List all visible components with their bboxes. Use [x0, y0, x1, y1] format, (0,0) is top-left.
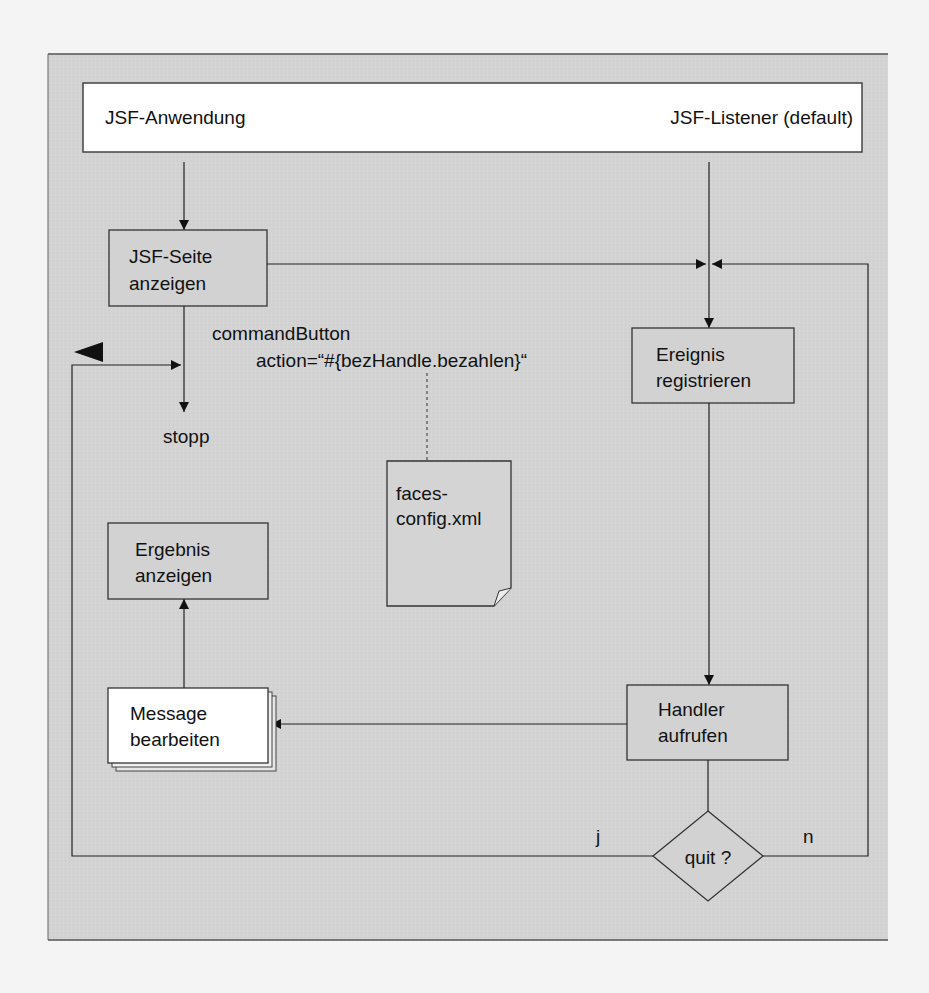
node-jsf-page: JSF-Seite anzeigen — [109, 230, 267, 306]
yes-label: j — [595, 826, 600, 847]
node-process-message: Message bearbeiten — [108, 688, 276, 771]
node-call-handler: Handler aufrufen — [627, 685, 788, 760]
node-jsf-page-line2: anzeigen — [129, 273, 206, 294]
command-button-action: action=“#{bezHandle.bezahlen}“ — [256, 350, 527, 371]
lane-label-application: JSF-Anwendung — [105, 107, 245, 128]
flow-diagram: JSF-Anwendung JSF-Listener (default) JSF… — [0, 0, 929, 993]
node-call-handler-line1: Handler — [658, 699, 725, 720]
node-call-handler-line2: aufrufen — [658, 725, 728, 746]
no-label: n — [803, 826, 814, 847]
node-register-event: Ereignis registrieren — [632, 328, 794, 403]
stop-label: stopp — [163, 426, 209, 447]
config-document-line1: faces- — [396, 483, 448, 504]
node-process-message-line2: bearbeiten — [130, 729, 220, 750]
node-jsf-page-line1: JSF-Seite — [129, 246, 212, 267]
lane-label-listener: JSF-Listener (default) — [670, 107, 853, 128]
node-register-event-line1: Ereignis — [656, 344, 725, 365]
node-process-message-line1: Message — [130, 703, 207, 724]
node-config-document: faces- config.xml — [387, 461, 511, 606]
node-register-event-line2: registrieren — [656, 370, 751, 391]
node-show-result: Ergebnis anzeigen — [108, 523, 268, 599]
config-document-line2: config.xml — [396, 508, 482, 529]
node-show-result-line2: anzeigen — [135, 565, 212, 586]
command-button-label: commandButton — [212, 323, 350, 344]
decision-label: quit ? — [685, 847, 731, 868]
node-show-result-line1: Ergebnis — [135, 539, 210, 560]
